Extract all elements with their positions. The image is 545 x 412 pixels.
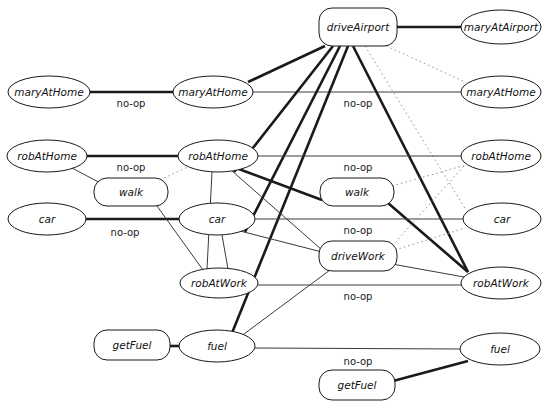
edge-label-no-op: no-op [117,98,146,109]
edge-robAtHome_M-to-walk_R [236,168,322,200]
edge-label-no-op: no-op [117,162,146,173]
node-label: robAtHome [17,150,77,162]
node-label: walk [345,186,370,198]
node-label: robAtWork [191,277,248,289]
node-label: maryAtHome [14,86,84,98]
node-label: fuel [207,340,227,352]
figure-caption [4,400,541,412]
edge-label-no-op: no-op [344,162,373,173]
edge-label-no-op: no-op [344,98,373,109]
edge-label-no-op: no-op [344,356,373,367]
node-label: maryAtAirport [464,21,539,33]
node-label: car [494,213,511,225]
node-driveWork[interactable]: driveWork [319,241,397,271]
node-walk_L[interactable]: walk [94,178,168,206]
edge-label-no-op: no-op [344,291,373,302]
edge-walk_R-to-robAtHome_R [392,165,466,186]
node-maryAtHome_M[interactable]: maryAtHome [173,76,253,108]
node-label: getFuel [113,339,152,351]
node-maryAtAirport[interactable]: maryAtAirport [461,10,541,44]
node-label: maryAtHome [178,86,248,98]
edge-driveAirport-to-maryAtHome_M [248,46,325,82]
node-robAtHome_L[interactable]: robAtHome [7,140,87,172]
node-car_L[interactable]: car [8,203,86,235]
node-fuel_R[interactable]: fuel [460,333,540,365]
edge-driveAirport-to-robAtWork_R [353,46,468,272]
node-fuel_M[interactable]: fuel [179,330,255,362]
node-label: getFuel [338,379,377,391]
edge-driveWork-to-robAtWork_R [392,264,464,277]
node-label: robAtHome [188,150,248,162]
node-label: driveAirport [327,21,390,33]
node-robAtHome_M[interactable]: robAtHome [178,140,258,172]
node-driveAirport[interactable]: driveAirport [319,8,397,46]
edge-car_M-to-driveWork [240,231,322,252]
node-label: walk [119,186,144,198]
node-car_R[interactable]: car [463,203,541,235]
node-car_M[interactable]: car [179,203,255,235]
edge-labels-layer: no-opno-opno-opno-opno-opno-opno-opno-op [107,97,376,369]
edge-label-no-op: no-op [344,225,373,236]
planning-graph-svg: maryAtHomemaryAtHomemaryAtHomedriveAirpo… [0,0,545,412]
node-getFuel_M[interactable]: getFuel [94,330,170,360]
node-label: car [39,213,56,225]
edge-fuel_M-to-fuel_R [255,348,460,349]
edge-walk_R-to-robAtWork_R [388,203,468,272]
node-robAtWork_R[interactable]: robAtWork [461,267,541,299]
diagram-canvas: maryAtHomemaryAtHomemaryAtHomedriveAirpo… [0,0,545,412]
node-label: fuel [490,343,510,355]
edge-driveWork-to-robAtHome_R [392,166,464,246]
edge-fuel_R-to-getFuel_B [393,361,468,381]
node-label: maryAtHome [466,86,536,98]
edge-car_M-to-robAtWork_M [222,235,228,269]
nodes-layer: maryAtHomemaryAtHomemaryAtHomedriveAirpo… [7,8,541,400]
node-label: car [209,213,226,225]
node-label: robAtHome [471,150,531,162]
node-getFuel_B[interactable]: getFuel [319,370,395,400]
node-maryAtHome_L[interactable]: maryAtHome [8,76,90,108]
node-walk_R[interactable]: walk [320,178,394,206]
node-label: driveWork [331,250,386,262]
node-robAtWork_M[interactable]: robAtWork [180,268,258,298]
node-robAtHome_R[interactable]: robAtHome [461,140,541,172]
node-label: robAtWork [473,277,530,289]
node-maryAtHome_R[interactable]: maryAtHome [461,76,541,108]
edge-label-no-op: no-op [111,227,140,238]
edge-walk_L-to-robAtHome_M [160,166,190,180]
edge-driveAirport-to-maryAtHome_R [382,44,465,82]
